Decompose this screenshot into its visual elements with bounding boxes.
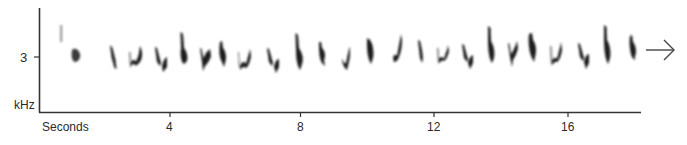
syllable [267,48,273,66]
syllable [584,54,589,69]
syllable [418,40,423,63]
x-tick-label-8: 8 [297,121,304,133]
x-tick-label-4: 4 [166,121,173,133]
syllable [578,43,584,61]
syllable [200,48,211,71]
syllable [274,59,279,73]
syllable [131,46,142,66]
arrow-right-icon [646,40,674,60]
spectrogram-syllables [61,25,637,73]
syllable [468,55,473,69]
syllable [319,42,325,66]
syllable [72,49,81,62]
syllable [439,45,449,63]
syllable [240,49,251,70]
y-tick-label-3: 3 [20,51,27,64]
syllable [110,45,117,69]
syllable [155,47,161,66]
syllable [462,44,468,62]
syllable [552,42,562,65]
syllable [181,32,188,64]
spectrogram-chart [0,0,687,145]
x-tick-label-12: 12 [427,121,440,133]
y-axis-label: kHz [14,99,35,111]
syllable [342,47,350,70]
syllable [604,25,610,64]
x-axis-label: Seconds [42,121,89,133]
syllable [367,38,373,64]
syllable [529,33,536,62]
syllable [162,57,167,72]
syllable [296,33,303,70]
syllable [630,35,636,60]
syllable [488,26,494,63]
syllable [61,25,63,42]
syllable [393,34,402,62]
syllable [219,41,226,67]
syllable [508,41,518,67]
x-tick-label-16: 16 [561,121,574,133]
syllable [238,52,240,69]
